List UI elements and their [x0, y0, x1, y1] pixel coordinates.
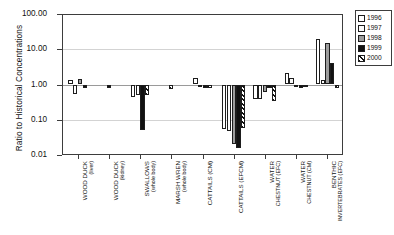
bar-series-container — [62, 14, 343, 155]
bar-group — [187, 14, 218, 155]
x-tick-label-line2: (whole body) — [181, 161, 188, 231]
bar-1998 — [232, 85, 236, 145]
bar-1998 — [325, 43, 329, 84]
bar-2000 — [303, 85, 307, 87]
bar-1999 — [140, 85, 144, 130]
bar-1997 — [136, 85, 140, 96]
legend-swatch-icon — [358, 35, 365, 42]
bar-2000 — [241, 85, 245, 128]
x-tick-label: BENTHICINVERTEBRATES (EFC) — [330, 161, 344, 231]
x-tick-label: WATERCHESTNUT (EFC) — [268, 161, 282, 231]
x-tick-label: WATERCHESTNUT (CM) — [299, 161, 313, 231]
x-tick-label-line1: SWALLOWS — [143, 161, 150, 197]
x-tick-label-line1: WATER — [268, 161, 275, 183]
bar-group — [281, 14, 312, 155]
bar-2000 — [207, 85, 211, 89]
bar-1999 — [236, 85, 240, 148]
x-tick-label-line2: (kidney) — [119, 161, 126, 231]
bar-1997 — [73, 85, 77, 94]
y-tick-label: 0.01 — [0, 151, 47, 159]
bar-1996 — [285, 73, 289, 84]
bar-2000 — [272, 85, 276, 102]
bar-1999 — [330, 63, 334, 84]
legend-swatch-icon — [358, 45, 365, 52]
bar-1996 — [253, 85, 257, 100]
x-tick-label-line2: (whole body) — [150, 161, 157, 231]
y-tick-label: 1.00 — [0, 81, 47, 89]
bar-group — [124, 14, 155, 155]
x-tick-label: SWALLOWS(whole body) — [143, 161, 157, 231]
bar-1997 — [321, 80, 325, 84]
x-tick-mark — [109, 155, 110, 159]
legend-label: 1998 — [367, 35, 382, 42]
chart-figure: Ratio to Historical Concentrations 100.0… — [0, 0, 394, 235]
legend-label: 1996 — [367, 15, 382, 22]
x-tick-label-line2: INVERTEBRATES (EFC) — [338, 161, 345, 231]
bar-1997 — [198, 85, 202, 87]
bar-1999 — [203, 85, 207, 88]
x-tick-mark — [171, 155, 172, 159]
legend-item[interactable]: 1998 — [358, 33, 390, 43]
x-tick-mark — [265, 155, 266, 159]
x-tick-label: MARSH WREN(whole body) — [174, 161, 188, 231]
x-tick-label: WOOD DUCK(kidney) — [112, 161, 126, 231]
legend-item[interactable]: 1996 — [358, 13, 390, 23]
bar-1996 — [131, 85, 135, 97]
bar-1996 — [193, 78, 197, 85]
x-tick-label: CATTAILS (CM) — [206, 161, 213, 231]
x-tick-label-line1: MARSH WREN — [174, 161, 181, 204]
y-tick-label: 10.00 — [0, 45, 47, 53]
bar-1999 — [267, 85, 271, 88]
y-tick-label: 0.10 — [0, 116, 47, 124]
y-tick-label: 100.00 — [0, 10, 47, 18]
x-tick-label-line2: (liver) — [88, 161, 95, 231]
legend-swatch-icon — [358, 25, 365, 32]
bar-1997 — [258, 85, 262, 99]
bar-1996 — [222, 85, 226, 129]
x-tick-mark — [296, 155, 297, 159]
bar-1996 — [316, 39, 320, 85]
x-tick-mark — [78, 155, 79, 159]
x-tick-label-line1: CATTAILS (CM) — [206, 161, 213, 205]
bar-group — [62, 14, 93, 155]
legend-label: 2000 — [367, 55, 382, 62]
x-tick-label-line1: WOOD DUCK — [112, 161, 119, 200]
bar-group — [156, 14, 187, 155]
x-tick-mark — [327, 155, 328, 159]
x-tick-mark — [140, 155, 141, 159]
legend-swatch-icon — [358, 15, 365, 22]
bar-1998 — [78, 79, 82, 85]
x-tick-label-line2: CHESTNUT (EFC) — [275, 161, 282, 231]
legend-label: 1999 — [367, 45, 382, 52]
y-tick-mark — [57, 155, 62, 156]
x-tick-mark — [203, 155, 204, 159]
bar-1999 — [107, 85, 111, 88]
bar-1998 — [263, 85, 267, 92]
legend-item[interactable]: 1997 — [358, 23, 390, 33]
x-tick-label-line2: CHESTNUT (CM) — [306, 161, 313, 231]
legend-item[interactable]: 1999 — [358, 43, 390, 53]
x-tick-label-line1: WOOD DUCK — [81, 161, 88, 200]
legend-label: 1997 — [367, 25, 382, 32]
x-tick-mark — [234, 155, 235, 159]
bar-2000 — [145, 85, 149, 96]
bar-1997 — [289, 78, 293, 85]
x-tick-label: CATTAILS (EFCM) — [237, 161, 244, 231]
x-tick-label-line1: CATTAILS (EFCM) — [237, 161, 244, 213]
bar-group — [249, 14, 280, 155]
bar-group — [93, 14, 124, 155]
bar-1999 — [299, 85, 303, 88]
legend-swatch-icon — [358, 55, 365, 62]
bar-1996 — [68, 80, 72, 84]
bar-1997 — [227, 85, 231, 131]
bar-1998 — [294, 85, 298, 87]
bar-2000 — [335, 85, 339, 88]
bar-group — [312, 14, 343, 155]
bar-2000 — [169, 85, 173, 89]
bar-1999 — [83, 85, 87, 89]
bar-group — [218, 14, 249, 155]
x-tick-label: WOOD DUCK(liver) — [81, 161, 95, 231]
chart-legend: 19961997199819992000 — [355, 10, 392, 66]
x-tick-label-line1: WATER — [299, 161, 306, 183]
legend-item[interactable]: 2000 — [358, 53, 390, 63]
